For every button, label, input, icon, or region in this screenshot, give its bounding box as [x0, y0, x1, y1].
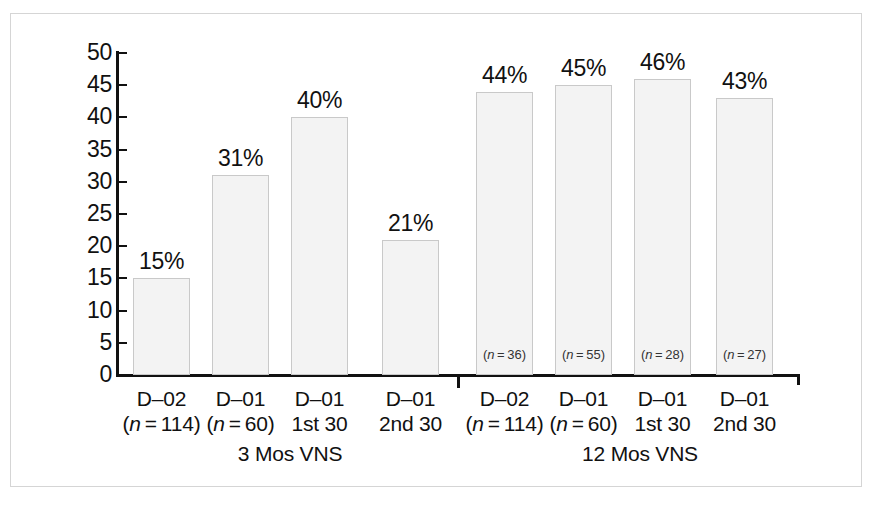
y-axis-tick-mark	[119, 277, 127, 279]
bar[interactable]	[291, 117, 348, 375]
x-axis-category-label: D–012nd 30	[360, 386, 461, 436]
y-axis-tick-label: 15	[52, 266, 112, 289]
figure-root: 50454035302520151050 15%31%40%21%44%(n =…	[0, 0, 875, 509]
category-label-line2-pre: 2nd 30	[379, 412, 442, 435]
y-axis-tick-mark	[119, 342, 127, 344]
y-axis-tick-label: 30	[52, 170, 112, 193]
bar[interactable]	[382, 240, 439, 375]
y-axis-tick-label: 50	[52, 41, 112, 64]
category-label-line2-pre: 2nd 30	[713, 412, 776, 435]
bar-value-label: 15%	[113, 249, 210, 274]
y-axis-tick-label: 20	[52, 234, 112, 257]
bar-sample-size-note: (n = 55)	[549, 348, 618, 362]
y-axis-tick-mark	[119, 84, 127, 86]
y-axis-tick-mark	[119, 52, 127, 54]
category-label-line1: D–01	[269, 386, 370, 411]
category-label-line2-pre: 1st 30	[291, 412, 347, 435]
y-axis-tick-label: 10	[52, 299, 112, 322]
category-label-line2-post: = 60)	[225, 412, 275, 435]
x-axis-group-label: 3 Mos VNS	[170, 442, 410, 466]
bar[interactable]	[716, 98, 773, 375]
y-axis-tick-label: 45	[52, 73, 112, 96]
note-value: = 36)	[494, 347, 526, 362]
bar[interactable]	[212, 175, 269, 375]
bar[interactable]	[555, 85, 612, 375]
note-value: = 27)	[734, 347, 766, 362]
x-axis-group-separator-tick	[457, 377, 460, 388]
category-label-n-symbol: n	[213, 412, 224, 435]
bar-value-label: 40%	[271, 88, 368, 113]
y-axis-tick-mark	[119, 116, 127, 118]
category-label-line1: D–01	[360, 386, 461, 411]
y-axis-tick-mark	[119, 181, 127, 183]
x-axis-category-label: D–012nd 30	[694, 386, 795, 436]
y-axis-tick-mark	[119, 374, 127, 376]
bar-sample-size-note: (n = 28)	[628, 348, 697, 362]
x-axis-group-label: 12 Mos VNS	[520, 442, 760, 466]
category-label-line2: 1st 30	[269, 411, 370, 436]
y-axis-tick-mark	[119, 310, 127, 312]
bar-value-label: 31%	[192, 146, 289, 171]
y-axis-tick-label: 5	[52, 331, 112, 354]
note-value: = 55)	[573, 347, 605, 362]
bar-sample-size-note: (n = 27)	[710, 348, 779, 362]
y-axis-tick-mark	[119, 213, 127, 215]
category-label-line2: 2nd 30	[694, 411, 795, 436]
x-axis-category-label: D–011st 30	[269, 386, 370, 436]
bar-chart-plot-area: 50454035302520151050 15%31%40%21%44%(n =…	[0, 0, 875, 509]
bar-value-label: 21%	[362, 211, 459, 236]
x-axis-right-cap	[797, 374, 800, 385]
y-axis-tick-mark	[119, 149, 127, 151]
bar-value-label: 43%	[696, 69, 793, 94]
y-axis-tick-label: 0	[52, 363, 112, 386]
y-axis-tick-label: 35	[52, 138, 112, 161]
bar[interactable]	[476, 92, 533, 375]
bar[interactable]	[133, 278, 190, 375]
y-axis-tick-label: 40	[52, 105, 112, 128]
y-axis-tick-mark	[119, 245, 127, 247]
category-label-line2-pre: 1st 30	[634, 412, 690, 435]
category-label-line2-post: = 60)	[568, 412, 618, 435]
bar[interactable]	[634, 79, 691, 375]
category-label-n-symbol: n	[472, 412, 483, 435]
note-value: = 28)	[652, 347, 684, 362]
category-label-n-symbol: n	[556, 412, 567, 435]
category-label-n-symbol: n	[129, 412, 140, 435]
y-axis-tick-label: 25	[52, 202, 112, 225]
category-label-line1: D–01	[694, 386, 795, 411]
bar-sample-size-note: (n = 36)	[470, 348, 539, 362]
category-label-line2: 2nd 30	[360, 411, 461, 436]
